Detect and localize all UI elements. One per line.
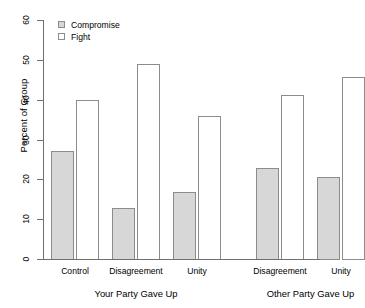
- x-axis-line: [43, 259, 320, 260]
- legend-item-compromise: Compromise: [58, 19, 120, 30]
- y-axis-tick-label: 50: [21, 50, 31, 70]
- bar-compromise-unity-2: [173, 192, 196, 260]
- bar-compromise-control-0: [51, 151, 74, 260]
- y-axis-tick-label: 30: [21, 130, 31, 150]
- bar-compromise-disagreement-3: [256, 168, 279, 260]
- x-axis-label-4: Unity: [331, 266, 351, 276]
- bar-fight-unity-2: [198, 116, 221, 260]
- y-axis-tick-label: 0: [21, 249, 31, 269]
- bar-fight-disagreement-3: [281, 95, 304, 260]
- plot-area: [43, 20, 320, 260]
- bar-compromise-disagreement-1: [112, 208, 135, 260]
- panel-label-1: Other Party Gave Up: [267, 288, 355, 299]
- y-axis-tick-label: 40: [21, 90, 31, 110]
- bar-fight-unity-4: [342, 77, 365, 260]
- x-axis-label-1: Disagreement: [109, 266, 163, 276]
- x-axis-label-0: Control: [61, 266, 89, 276]
- y-axis-tick-label: 60: [21, 10, 31, 30]
- y-axis-tick-label: 20: [21, 169, 31, 189]
- bar-fight-disagreement-1: [137, 64, 160, 260]
- bar-fight-control-0: [76, 100, 99, 260]
- filled-grey-square-icon: [58, 21, 65, 28]
- legend: CompromiseFight: [58, 19, 120, 43]
- x-axis-label-2: Unity: [187, 266, 207, 276]
- legend-item-fight: Fight: [58, 31, 120, 42]
- empty-square-icon: [58, 33, 65, 40]
- panel-label-0: Your Party Gave Up: [94, 288, 177, 299]
- bar-compromise-unity-4: [317, 177, 340, 260]
- legend-label-compromise: Compromise: [71, 20, 120, 30]
- x-axis-label-3: Disagreement: [253, 266, 307, 276]
- y-axis-tick-label: 10: [21, 209, 31, 229]
- legend-label-fight: Fight: [71, 32, 90, 42]
